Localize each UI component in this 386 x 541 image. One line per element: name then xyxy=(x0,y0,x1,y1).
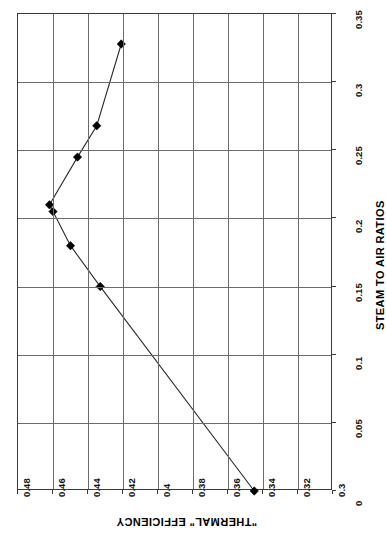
tick-mark-efficiency xyxy=(157,490,158,494)
gridline-efficiency xyxy=(123,14,124,489)
gridline-ratio xyxy=(18,287,331,288)
tick-label-ratio: 0.35 xyxy=(353,10,364,29)
gridline-efficiency xyxy=(298,14,299,489)
tick-label-ratio: 0.15 xyxy=(353,283,364,302)
tick-mark-efficiency xyxy=(227,490,228,494)
data-series-layer xyxy=(18,14,333,491)
gridline-ratio xyxy=(18,355,331,356)
tick-mark-ratio xyxy=(332,149,336,150)
tick-mark-ratio xyxy=(332,422,336,423)
gridline-ratio xyxy=(18,82,331,83)
tick-label-efficiency: 0.32 xyxy=(301,478,312,497)
tick-label-ratio: 0.05 xyxy=(353,419,364,438)
plot-area xyxy=(17,13,332,490)
tick-label-efficiency: 0.36 xyxy=(231,478,242,497)
data-point-marker xyxy=(117,40,125,48)
tick-mark-efficiency xyxy=(122,490,123,494)
series-markers xyxy=(45,40,258,495)
tick-label-ratio: 0.1 xyxy=(353,356,364,370)
tick-label-efficiency: 0.34 xyxy=(266,478,277,497)
tick-mark-ratio xyxy=(332,286,336,287)
tick-label-ratio: 0.25 xyxy=(353,146,364,165)
tick-mark-ratio xyxy=(332,490,336,491)
gridline-efficiency xyxy=(158,14,159,489)
ratio-axis-title: STEAM TO AIR RATIOS xyxy=(374,200,386,330)
tick-label-ratio: 0 xyxy=(353,501,364,506)
gridline-efficiency xyxy=(228,14,229,489)
data-point-marker xyxy=(93,122,101,130)
tick-mark-efficiency xyxy=(192,490,193,494)
tick-label-efficiency: 0.38 xyxy=(196,478,207,497)
tick-mark-ratio xyxy=(332,81,336,82)
efficiency-axis-title: "THERMAL" EFFICIENCY xyxy=(116,516,257,528)
tick-mark-ratio xyxy=(332,13,336,14)
data-point-marker xyxy=(73,153,81,161)
tick-label-efficiency: 0.48 xyxy=(21,478,32,497)
tick-mark-efficiency xyxy=(87,490,88,494)
gridline-ratio xyxy=(18,150,331,151)
tick-mark-efficiency xyxy=(17,490,18,494)
data-point-marker xyxy=(66,241,74,249)
tick-label-ratio: 0.3 xyxy=(353,84,364,98)
tick-mark-efficiency xyxy=(297,490,298,494)
gridline-ratio xyxy=(18,218,331,219)
tick-label-efficiency: 0.4 xyxy=(161,483,172,497)
tick-mark-ratio xyxy=(332,354,336,355)
gridline-efficiency xyxy=(88,14,89,489)
tick-mark-efficiency xyxy=(52,490,53,494)
tick-mark-efficiency xyxy=(262,490,263,494)
gridline-efficiency xyxy=(53,14,54,489)
tick-label-efficiency: 0.42 xyxy=(126,478,137,497)
gridline-efficiency xyxy=(263,14,264,489)
series-line xyxy=(50,44,255,491)
tick-label-efficiency: 0.3 xyxy=(336,483,347,497)
gridline-ratio xyxy=(18,423,331,424)
data-point-marker xyxy=(250,487,258,495)
tick-label-ratio: 0.2 xyxy=(353,220,364,234)
tick-label-efficiency: 0.44 xyxy=(91,478,102,497)
tick-mark-ratio xyxy=(332,217,336,218)
gridline-efficiency xyxy=(193,14,194,489)
tick-label-efficiency: 0.46 xyxy=(56,478,67,497)
